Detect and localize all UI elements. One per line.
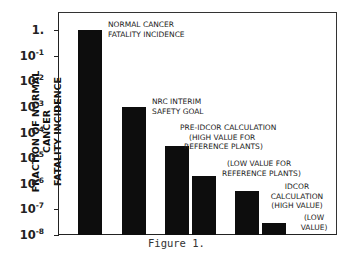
y-tick-mark [44,235,58,236]
y-tick-label: 10-3 [20,100,44,114]
y-tick-mark [44,133,58,134]
annotation-idcor-high: IDCOR CALCULATION (HIGH VALUE) [262,182,332,211]
annotation-line: IDCOR [262,182,332,192]
bar [235,191,259,235]
y-tick-label: 10-2 [20,74,44,88]
y-tick-label: 10-5 [20,151,44,165]
annotation-line: PRE-IDCOR CALCULATION [180,123,276,133]
y-tick-mark [44,56,58,57]
y-tick-mark [44,30,58,31]
annotation-pre-idcor-low: (LOW VALUE FOR REFERENCE PLANTS) [222,159,301,178]
bar [122,107,146,235]
y-tick-mark [44,184,58,185]
annotation-line: NORMAL CANCER [108,20,185,30]
bar [262,223,286,235]
y-tick-label: 10-6 [20,177,44,191]
y-tick-label: 10-4 [20,126,44,140]
bar [192,176,216,235]
y-tick-label: 10-1 [20,49,44,63]
bar [78,30,102,235]
annotation-idcor-low: (LOW VALUE) [296,213,332,232]
y-tick-mark [44,107,58,108]
y-tick-mark [44,209,58,210]
annotation-line: FATALITY INCIDENCE [108,30,185,40]
annotation-line: (HIGH VALUE FOR [180,133,276,143]
y-tick-label: 1. [32,23,44,37]
annotation-line: (LOW [296,213,332,223]
y-tick-label: 10-7 [20,202,44,216]
bar [165,146,189,235]
figure-caption: Figure 1. [148,237,205,249]
annotation-line: SAFETY GOAL [152,107,204,117]
annotation-pre-idcor-high: PRE-IDCOR CALCULATION (HIGH VALUE FOR RE… [180,123,276,152]
annotation-normal-cancer: NORMAL CANCER FATALITY INCIDENCE [108,20,185,39]
y-tick-mark [44,158,58,159]
annotation-nrc-goal: NRC INTERIM SAFETY GOAL [152,97,204,116]
annotation-line: NRC INTERIM [152,97,204,107]
annotation-line: REFERENCE PLANTS) [180,142,276,152]
annotation-line: CALCULATION [262,192,332,202]
y-tick-mark [44,81,58,82]
y-tick-label: 10-8 [20,228,44,242]
annotation-line: (LOW VALUE FOR [222,159,301,169]
annotation-line: (HIGH VALUE) [262,201,332,211]
annotation-line: REFERENCE PLANTS) [222,169,301,179]
annotation-line: VALUE) [296,223,332,233]
